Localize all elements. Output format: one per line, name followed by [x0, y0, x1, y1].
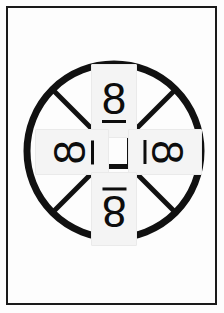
digit-character-left: 8: [50, 140, 90, 164]
screenshot-canvas: 8 8 8 8: [0, 0, 224, 313]
digit-cell-bottom: 8: [91, 172, 137, 246]
digit-character-right: 8: [147, 140, 187, 164]
digit-cell-top: 8: [91, 64, 137, 138]
digit-glyph-bottom: 8: [102, 187, 126, 231]
digit-character-top: 8: [102, 79, 126, 119]
digit-glyph-right: 8: [143, 140, 187, 164]
digit-cell-right: 8: [128, 129, 202, 175]
digit-glyph-top: 8: [102, 79, 126, 123]
digit-cell-left: 8: [35, 129, 109, 175]
digit-character-bottom: 8: [102, 191, 126, 231]
diagram-stage: 8 8 8 8: [0, 0, 224, 313]
digit-glyph-left: 8: [50, 140, 94, 164]
